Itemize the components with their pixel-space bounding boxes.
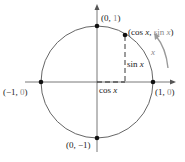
sin-label: sin x [127,59,144,69]
arc-arrow [156,36,168,68]
label-cos-sin: (cos x, sin x) [128,27,174,37]
x-axis-arrow-icon [170,80,176,85]
label-1-0: (1, 0) [155,87,175,97]
y-axis-arrow-icon [95,4,100,10]
unit-circle-diagram: (0, 1) (cos x, sin x) x sin x cos x (−1,… [0,0,185,162]
point-0-1 [95,24,100,29]
point-1-0 [151,80,156,85]
cos-label: cos x [99,85,117,95]
label-neg1-0: (−1, 0) [3,87,28,97]
label-0-neg1: (0, −1) [66,140,91,150]
arc-label: x [150,47,155,57]
point-cos-sin [123,33,128,38]
point-neg1-0 [39,80,44,85]
label-0-1: (0, 1) [101,13,121,23]
point-0-neg1 [95,136,100,141]
